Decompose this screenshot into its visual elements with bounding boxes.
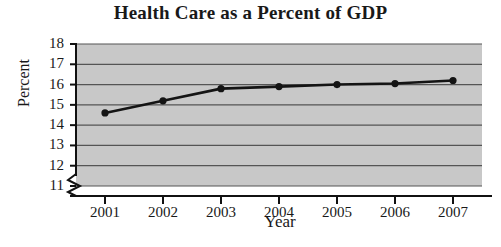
x-tick-label: 2006 (372, 205, 418, 220)
x-tick-label: 2007 (430, 205, 476, 220)
y-tick-label: 13 (38, 137, 64, 152)
y-tick-label: 18 (38, 36, 64, 51)
plot-background (76, 44, 482, 186)
x-tick-label: 2003 (198, 205, 244, 220)
x-tick-label: 2004 (256, 205, 302, 220)
x-tick-label: 2005 (314, 205, 360, 220)
y-tick-label: 16 (38, 77, 64, 92)
x-tick-label: 2002 (140, 205, 186, 220)
chart-figure: Health Care as a Percent of GDP Percent … (0, 0, 501, 247)
plot-area (0, 0, 501, 247)
y-tick-label: 12 (38, 158, 64, 173)
y-tick-label: 11 (38, 178, 64, 193)
x-tick-label: 2001 (82, 205, 128, 220)
y-tick-label: 14 (38, 117, 64, 132)
y-tick-label: 17 (38, 56, 64, 71)
y-tick-label: 15 (38, 97, 64, 112)
